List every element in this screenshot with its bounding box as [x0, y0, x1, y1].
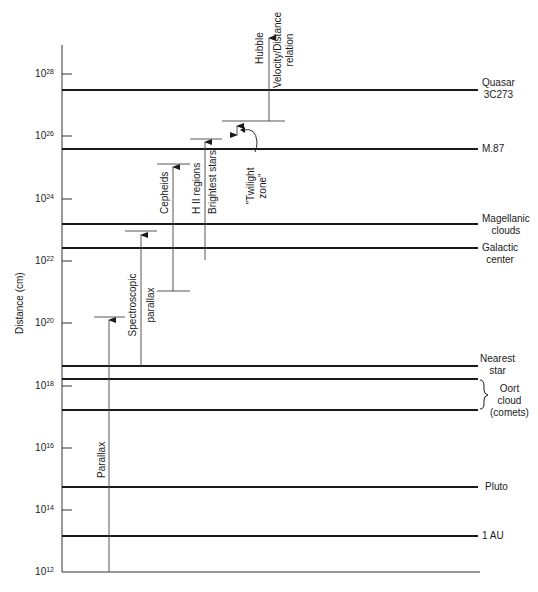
tick-1e28: 1028	[14, 69, 54, 79]
spectroscopic-label: Spectroscopic parallax	[127, 260, 157, 350]
nearest-star-label: Neareststar	[480, 353, 515, 377]
tick-1e12: 1012	[14, 567, 54, 577]
cepheids-label: Cepheids	[159, 172, 171, 214]
au-label: 1 AU	[482, 530, 504, 542]
tick-1e26: 1026	[14, 131, 54, 141]
method-ranges	[94, 38, 285, 572]
tick-1e24: 1024	[14, 194, 54, 204]
parallax-label: Parallax	[96, 442, 108, 478]
magellanic-label: Magellanicclouds	[482, 213, 530, 237]
oort-cloud-label: Oortcloud(comets)	[490, 383, 529, 419]
hii-regions-label: H II regions	[191, 163, 203, 214]
object-lines	[62, 90, 478, 536]
velocity-distance-label: Velocity/Distance relation	[272, 5, 296, 95]
tick-1e18: 1018	[14, 381, 54, 391]
galactic-center-label: Galacticcenter	[482, 242, 518, 266]
twilight-zone-label: "Twilight zone"	[245, 157, 269, 215]
oort-brace	[480, 380, 488, 409]
quasar-label: Quasar3C273	[482, 77, 515, 101]
hubble-label: Hubble	[254, 32, 266, 64]
tick-1e22: 1022	[14, 256, 54, 266]
distance-ladder-diagram	[0, 0, 538, 592]
brightest-stars-label: Brightest stars	[207, 150, 219, 214]
tick-1e16: 1016	[14, 443, 54, 453]
y-axis-title: Distance (cm)	[14, 272, 25, 334]
tick-1e14: 1014	[14, 505, 54, 515]
pluto-label: Pluto	[485, 481, 508, 493]
m87-label: M.87	[482, 143, 504, 155]
y-ticks	[62, 74, 72, 510]
